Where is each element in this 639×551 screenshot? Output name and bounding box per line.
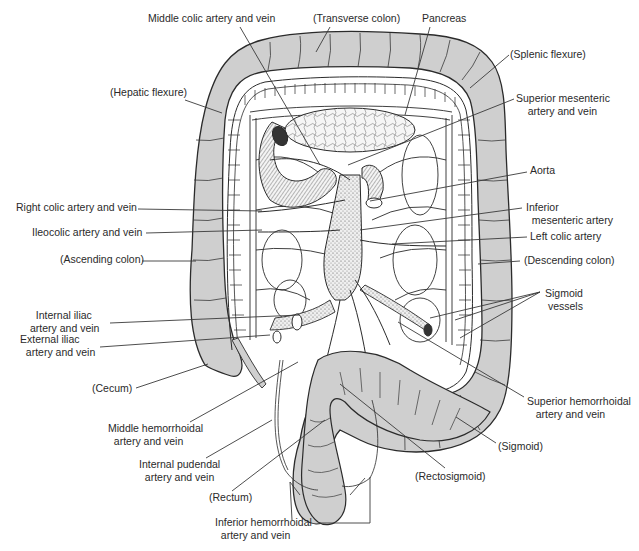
label-sigmoid: (Sigmoid): [498, 440, 543, 453]
label-rectum: (Rectum): [209, 491, 252, 504]
leader-cecum: [136, 364, 208, 388]
label-middle-colic: Middle colic artery and vein: [148, 12, 275, 25]
label-inferior-mesenteric: Inferior mesenteric artery: [526, 201, 613, 226]
label-right-colic: Right colic artery and vein: [16, 201, 137, 214]
label-middle-hemorrhoidal: Middle hemorrhoidal artery and vein: [108, 422, 203, 447]
leader-internal-pudendal: [206, 420, 272, 458]
label-left-colic: Left colic artery: [530, 230, 601, 243]
leader-middle-hemorrhoidal: [190, 362, 298, 422]
label-transverse-colon: (Transverse colon): [313, 12, 400, 25]
pancreas: [285, 108, 415, 152]
label-ascending-colon: (Ascending colon): [60, 253, 144, 266]
label-superior-mesenteric: Superior mesenteric artery and vein: [516, 92, 610, 117]
colon-illustration: [0, 0, 639, 551]
label-splenic-flexure: (Splenic flexure): [510, 48, 586, 61]
label-ileocolic: Ileocolic artery and vein: [32, 226, 142, 239]
label-internal-iliac: Internal iliac artery and vein: [30, 309, 99, 334]
label-aorta: Aorta: [530, 164, 555, 177]
leader-external-iliac: [100, 335, 270, 347]
anatomy-diagram: Middle colic artery and vein(Transverse …: [0, 0, 639, 551]
label-pancreas: Pancreas: [422, 12, 466, 25]
label-sigmoid-vessels: Sigmoid vessels: [545, 287, 583, 312]
label-inferior-hemorrhoidal: Inferior hemorrhoidal artery and vein: [215, 516, 312, 541]
label-internal-pudendal: Internal pudendal artery and vein: [139, 458, 220, 483]
label-rectosigmoid: (Rectosigmoid): [415, 470, 486, 483]
label-hepatic-flexure: (Hepatic flexure): [110, 86, 187, 99]
leader-inferior-hemorrhoidal: [290, 482, 292, 520]
label-superior-hemorrhoidal: Superior hemorrhoidal artery and vein: [527, 395, 631, 420]
label-external-iliac: External iliac artery and vein: [20, 333, 95, 358]
label-descending-colon: (Descending colon): [524, 254, 614, 267]
label-cecum: (Cecum): [92, 382, 132, 395]
